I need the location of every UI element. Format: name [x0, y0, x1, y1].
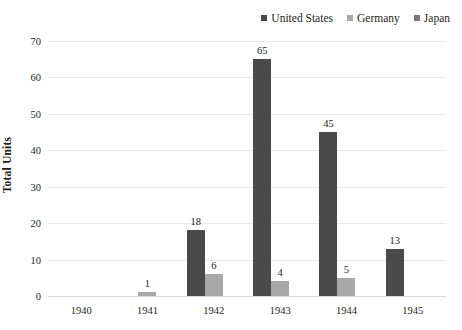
x-axis-tick-label: 1941: [137, 305, 158, 316]
bar-value-label: 18: [191, 216, 202, 227]
bar-slot: 18: [187, 41, 205, 296]
bar-group-1943: 654: [247, 41, 313, 296]
y-axis-tick-label: 50: [31, 108, 42, 119]
x-axis-tick-label: 1942: [203, 305, 224, 316]
bar-group-1941: 1: [114, 41, 180, 296]
y-axis-tick-label: 20: [31, 218, 42, 229]
bar-group-1944: 455: [313, 41, 379, 296]
x-axis-tick-label: 1943: [270, 305, 291, 316]
bar-value-label: 4: [278, 267, 283, 278]
x-axis-tick-label: 1944: [336, 305, 357, 316]
bar-group-1940: [48, 41, 114, 296]
bar-germany-1942[interactable]: 6: [205, 274, 223, 296]
bar-slot: [422, 41, 440, 296]
bar-group-1942: 186: [181, 41, 247, 296]
bar-slot: 1: [138, 41, 156, 296]
bar-germany-1943[interactable]: 4: [271, 281, 289, 296]
legend-item-germany[interactable]: Germany: [347, 12, 400, 24]
bar-slot: 6: [205, 41, 223, 296]
legend-swatch-icon: [414, 15, 420, 21]
bar-slot: 5: [337, 41, 355, 296]
y-axis-tick-label: 60: [31, 72, 42, 83]
legend-swatch-icon: [347, 15, 353, 21]
bar-united-states-1942[interactable]: 18: [187, 230, 205, 296]
y-axis-title: Total Units: [1, 137, 13, 193]
bar-value-label: 13: [390, 235, 401, 246]
y-axis-tick-label: 30: [31, 181, 42, 192]
bar-united-states-1943[interactable]: 65: [253, 59, 271, 296]
bar-slot: [90, 41, 108, 296]
legend-swatch-icon: [261, 15, 267, 21]
bar-value-label: 1: [145, 278, 150, 289]
bar-group-1945: 13: [380, 41, 446, 296]
bar-slot: [54, 41, 72, 296]
bar-germany-1944[interactable]: 5: [337, 278, 355, 296]
y-axis-tick-label: 10: [31, 254, 42, 265]
bar-value-label: 65: [257, 45, 268, 56]
legend-item-united-states[interactable]: United States: [261, 12, 333, 24]
bar-slot: [404, 41, 422, 296]
bar-slot: [289, 41, 307, 296]
axis-baseline: [48, 296, 446, 297]
bar-united-states-1944[interactable]: 45: [319, 132, 337, 296]
chart-legend: United StatesGermanyJapan: [0, 10, 462, 26]
bar-slot: 45: [319, 41, 337, 296]
bar-value-label: 5: [344, 264, 349, 275]
bar-slot: 4: [271, 41, 289, 296]
legend-item-japan[interactable]: Japan: [414, 12, 450, 24]
bar-slot: [156, 41, 174, 296]
bar-slot: 13: [386, 41, 404, 296]
x-axis-tick-label: 1940: [71, 305, 92, 316]
bar-united-states-1945[interactable]: 13: [386, 249, 404, 296]
y-axis-tick-label: 40: [31, 145, 42, 156]
y-axis-tick-label: 70: [31, 36, 42, 47]
plot-area: 0102030405060701940119411861942654194345…: [48, 41, 446, 296]
bar-slot: [223, 41, 241, 296]
bar-chart: United StatesGermanyJapan Total Units 01…: [0, 0, 462, 330]
bar-slot: 65: [253, 41, 271, 296]
bar-germany-1941[interactable]: 1: [138, 292, 156, 296]
legend-label: Japan: [424, 12, 450, 24]
legend-label: Germany: [357, 12, 400, 24]
y-axis-tick-label: 0: [36, 291, 41, 302]
bar-value-label: 45: [323, 118, 334, 129]
bar-slot: [120, 41, 138, 296]
x-axis-tick-label: 1945: [402, 305, 423, 316]
bar-value-label: 6: [211, 260, 216, 271]
bar-slot: [72, 41, 90, 296]
legend-label: United States: [271, 12, 333, 24]
bar-slot: [355, 41, 373, 296]
